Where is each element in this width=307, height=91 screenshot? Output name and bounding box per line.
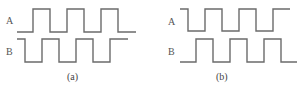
waveform-a: [180, 9, 290, 31]
waveform-b: [17, 39, 128, 62]
caption-b: (b): [216, 71, 228, 83]
waveform-a: [17, 9, 136, 32]
panel-b: A B (b): [168, 9, 297, 83]
signal-label-a: A: [168, 16, 176, 27]
signal-label-b: B: [6, 46, 13, 57]
signal-label-a: A: [6, 15, 14, 26]
waveform-b: [180, 39, 297, 62]
caption-a: (a): [67, 71, 78, 83]
panel-a: A B (a): [6, 9, 136, 83]
signal-label-b: B: [168, 46, 175, 57]
quadrature-waveform-diagram: A B (a) A B (b): [0, 0, 307, 91]
